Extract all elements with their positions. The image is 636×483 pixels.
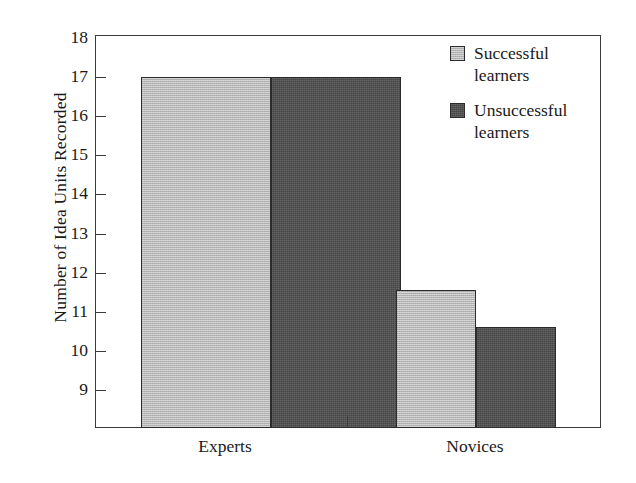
y-axis-tick-label: 16: [42, 107, 88, 125]
y-axis-tick-label: 14: [42, 185, 88, 203]
y-axis-tick-label: 13: [42, 225, 88, 243]
y-axis-tick: [95, 390, 106, 391]
x-axis-mid-tick: [347, 416, 348, 428]
x-axis-label-experts: Experts: [150, 436, 300, 457]
legend-item-successful: Successful learners: [450, 42, 625, 87]
legend-label-unsuccessful-line1: Unsuccessful: [474, 100, 567, 120]
y-axis-tick-label: 9: [42, 381, 88, 399]
legend: Successful learners Unsuccessful learner…: [450, 42, 625, 156]
y-axis-tick-label: 15: [42, 146, 88, 164]
y-axis-tick: [95, 116, 106, 117]
y-axis-tick: [95, 77, 106, 78]
bar-novices-unsuccessful: [476, 327, 556, 428]
y-axis-tick-label: 17: [42, 68, 88, 86]
legend-label-unsuccessful-line2: learners: [474, 122, 529, 142]
bar-chart: Number of Idea Units Recorded 1817161514…: [0, 0, 636, 483]
x-axis-label-novices: Novices: [400, 436, 550, 457]
y-axis-tick: [95, 234, 106, 235]
y-axis-tick: [95, 273, 106, 274]
legend-label-successful-line1: Successful: [474, 43, 549, 63]
y-axis-tick: [95, 312, 106, 313]
y-axis-tick: [95, 155, 106, 156]
y-axis-tick: [95, 351, 106, 352]
legend-swatch-dark-icon: [450, 103, 465, 118]
legend-label-unsuccessful: Unsuccessful learners: [474, 99, 567, 144]
legend-swatch-light-icon: [450, 46, 465, 61]
legend-item-unsuccessful: Unsuccessful learners: [450, 99, 625, 144]
bar-experts-successful: [141, 77, 271, 428]
legend-label-successful-line2: learners: [474, 65, 529, 85]
bar-experts-unsuccessful: [271, 77, 401, 428]
y-axis-tick-label: 12: [42, 264, 88, 282]
y-axis-tick: [95, 194, 106, 195]
bar-novices-successful: [396, 290, 476, 428]
y-axis-tick-label: 18: [42, 29, 88, 47]
y-axis-tick-label: 11: [42, 303, 88, 321]
legend-label-successful: Successful learners: [474, 42, 549, 87]
y-axis-tick-label: 10: [42, 342, 88, 360]
